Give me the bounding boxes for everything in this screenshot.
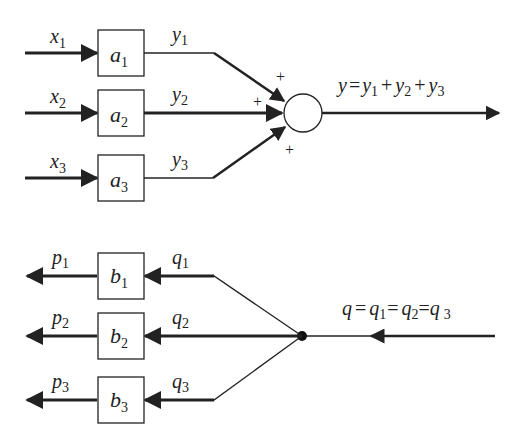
sign-plus-1: + <box>276 68 285 85</box>
label-x2: x2 <box>49 85 66 111</box>
label-x1: x1 <box>49 25 66 51</box>
block-diagram: x1 x2 x3 a1 a2 a3 y1 y2 y3 + + + y=y1+y2… <box>0 0 527 437</box>
input-equation: q=q1=q2=q3 <box>342 297 451 322</box>
summing-section: x1 x2 x3 a1 a2 a3 y1 y2 y3 + + + y=y1+y2… <box>25 23 499 201</box>
label-q2: q2 <box>172 306 189 331</box>
label-y2: y2 <box>170 83 188 108</box>
signal-y1-arrow <box>214 53 284 101</box>
label-p3: p3 <box>50 370 69 395</box>
sign-plus-2: + <box>253 93 262 110</box>
label-q1: q1 <box>172 246 189 271</box>
label-y3: y3 <box>170 148 188 173</box>
branching-section: p1 p2 p3 b1 b2 b3 q1 q2 q3 q=q1=q2=q3 <box>27 246 495 423</box>
label-y1: y1 <box>170 23 188 48</box>
sign-plus-3: + <box>285 141 294 158</box>
output-equation: y=y1+y2+y3 <box>336 74 444 99</box>
label-p2: p2 <box>50 306 69 331</box>
summing-junction <box>284 94 322 132</box>
branch-q3-line <box>180 336 302 400</box>
signal-y3-arrow <box>213 127 285 178</box>
label-q3: q3 <box>172 370 189 395</box>
label-p1: p1 <box>50 246 69 271</box>
branch-q1-line <box>180 276 302 336</box>
label-x3: x3 <box>49 150 66 176</box>
